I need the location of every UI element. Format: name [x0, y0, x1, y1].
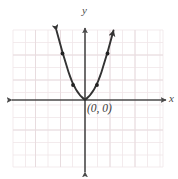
coordinate-plane-svg	[0, 0, 178, 179]
vertex-coordinate-label: (0, 0)	[87, 103, 112, 115]
y-axis-label: y	[82, 5, 87, 16]
x-axis-label: x	[169, 93, 174, 104]
graph-figure: y x (0, 0)	[0, 0, 178, 179]
